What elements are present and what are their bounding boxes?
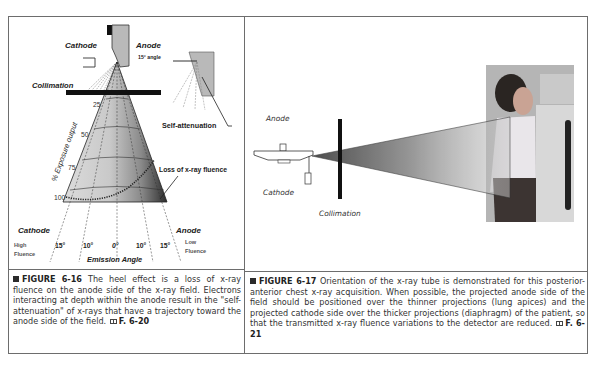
svg-text:25: 25 — [93, 101, 101, 108]
svg-text:75: 75 — [68, 164, 76, 171]
svg-text:15°: 15° — [160, 242, 171, 249]
cathode-top-label: Cathode — [65, 41, 98, 50]
x-ray-cone — [63, 62, 167, 202]
anode-top-label: Anode — [135, 41, 161, 50]
svg-text:100: 100 — [54, 194, 66, 201]
loss-arrow — [160, 176, 178, 199]
collimation-label: Collimation — [32, 81, 74, 90]
book-reference-icon — [556, 321, 563, 326]
anode-angle-label: 15° angle — [138, 54, 161, 60]
svg-text:50: 50 — [81, 131, 89, 138]
figure-label: FIGURE 6-17 — [259, 276, 316, 286]
self-attenuation-label: Self-attenuation — [162, 121, 216, 130]
x-ray-tube-icon — [254, 144, 313, 184]
caption-bullet-icon — [13, 276, 19, 282]
anode-block-icon — [107, 25, 129, 67]
svg-text:15°: 15° — [55, 242, 66, 249]
caption-bullet-icon — [250, 278, 256, 284]
cathode-label-6-17: Cathode — [263, 188, 294, 197]
figure-6-16-caption: FIGURE 6-16 The heel effect is a loss of… — [13, 274, 241, 327]
anode-label-6-17: Anode — [265, 114, 290, 123]
emission-angle-label: Emission Angle — [87, 255, 142, 264]
cathode-bottom-label: Cathode — [18, 226, 51, 235]
figure-6-17-illustration: Anode Cathode Collimation — [254, 65, 574, 222]
collimator-bar-6-17 — [338, 119, 342, 199]
self-attenuation-inset — [173, 52, 232, 126]
low-fluence-label-1: Low — [185, 239, 197, 245]
angle-tick-labels: 15° 10° 0° 10° 15° — [55, 242, 171, 249]
high-fluence-label-1: High — [14, 242, 27, 248]
svg-text:10°: 10° — [83, 242, 94, 249]
loss-label: Loss of x-ray fluence — [159, 166, 227, 174]
cathode-cup-icon — [83, 58, 95, 67]
high-fluence-label-2: Fluence — [14, 251, 35, 257]
figure-6-17-caption: FIGURE 6-17 Orientation of the x-ray tub… — [250, 276, 585, 340]
collimator-bar — [66, 90, 161, 95]
anode-bottom-label: Anode — [175, 226, 201, 235]
figure-label: FIGURE 6-16 — [22, 274, 82, 284]
svg-text:10°: 10° — [136, 242, 147, 249]
book-reference-icon — [110, 319, 117, 324]
collimation-label-6-17: Collimation — [319, 209, 361, 218]
low-fluence-label-2: Fluence — [185, 248, 206, 254]
svg-text:0°: 0° — [112, 242, 119, 249]
cross-reference-link[interactable]: F. 6-20 — [119, 316, 150, 326]
